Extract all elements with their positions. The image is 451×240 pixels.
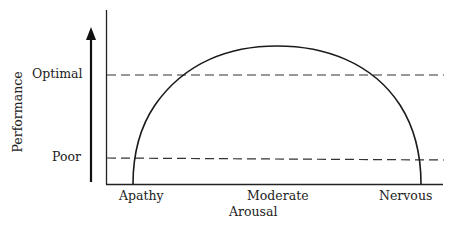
y-tick-optimal: Optimal: [32, 66, 83, 81]
x-tick-apathy: Apathy: [119, 188, 164, 203]
y-axis-label: Performance: [10, 73, 25, 153]
x-axis-label: Arousal: [229, 204, 277, 219]
x-tick-moderate: Moderate: [247, 188, 309, 203]
poor-dashed-line: [107, 158, 444, 160]
y-tick-poor: Poor: [52, 149, 81, 164]
performance-curve: [133, 46, 421, 184]
performance-arrow-head-icon: [86, 27, 96, 40]
x-tick-nervous: Nervous: [379, 188, 432, 203]
